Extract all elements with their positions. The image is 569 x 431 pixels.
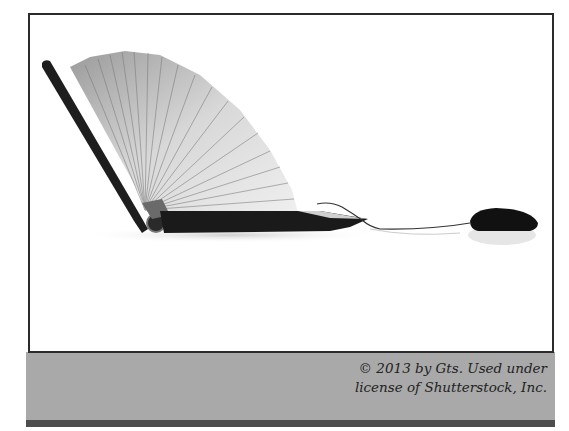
book-pages-icon <box>70 51 298 213</box>
image-credit-caption: © 2013 by Gts. Used under license of Shu… <box>227 359 547 397</box>
caption-line-2: license of Shutterstock, Inc. <box>227 378 547 397</box>
figure-frame <box>28 13 554 353</box>
bottom-divider-strip <box>26 420 555 427</box>
book-laptop-illustration <box>30 15 552 351</box>
computer-mouse-icon <box>468 208 538 245</box>
caption-line-1: © 2013 by Gts. Used under <box>227 359 547 378</box>
